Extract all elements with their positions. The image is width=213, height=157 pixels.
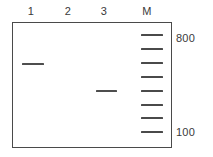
ladder-band-5 — [141, 90, 163, 92]
size-label-100: 100 — [176, 126, 195, 138]
ladder-band-1 — [141, 34, 163, 36]
gel-electrophoresis-figure: 1 2 3 M 800 100 — [0, 0, 213, 157]
ladder-band-6 — [141, 104, 163, 106]
ladder-band-3 — [141, 62, 163, 64]
lane-label-1: 1 — [22, 4, 40, 18]
ladder-band-2 — [141, 48, 163, 50]
lane-label-m: M — [138, 4, 156, 18]
ladder-band-8 — [141, 131, 163, 133]
size-label-800: 800 — [176, 32, 195, 44]
gel-box — [12, 22, 172, 148]
ladder-band-4 — [141, 76, 163, 78]
lane-label-2: 2 — [59, 4, 77, 18]
ladder-band-7 — [141, 117, 163, 119]
lane-label-3: 3 — [95, 4, 113, 18]
